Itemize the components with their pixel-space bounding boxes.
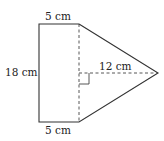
height-label: 18 cm <box>5 66 38 78</box>
top-width-label: 5 cm <box>45 10 71 22</box>
composite-figure: 5 cm 18 cm 12 cm 5 cm <box>0 0 164 141</box>
bottom-width-label: 5 cm <box>45 124 71 136</box>
right-angle-marker <box>79 73 89 84</box>
triangle-height-label: 12 cm <box>99 60 132 72</box>
